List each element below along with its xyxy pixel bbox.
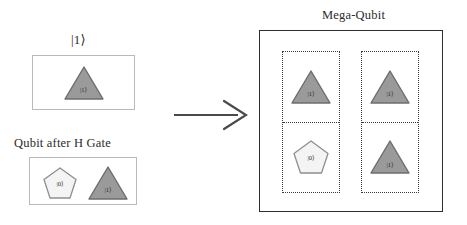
triangle-icon xyxy=(87,165,129,201)
after-h-gate-caption: Qubit after H Gate xyxy=(14,137,111,150)
triangle-icon xyxy=(290,69,332,105)
pentagon-icon xyxy=(42,166,78,200)
triangle-shape-right-top: |1⟩ xyxy=(369,69,411,105)
transform-arrow xyxy=(172,99,248,131)
triangle-icon xyxy=(63,65,105,101)
triangle-icon xyxy=(369,139,411,175)
triangle-shape-ket-one: |1⟩ xyxy=(63,65,105,101)
mega-qubit-container: |1⟩ |0⟩ |1⟩ xyxy=(259,30,443,212)
triangle-shape-right-bottom: |1⟩ xyxy=(369,139,411,175)
mega-cell-left-top: |1⟩ xyxy=(283,52,339,123)
mega-cell-left-bottom: |0⟩ xyxy=(283,123,339,193)
mega-qubit-caption: Mega-Qubit xyxy=(322,9,385,22)
pentagon-icon xyxy=(292,139,330,175)
pentagon-shape-ket-zero: |0⟩ xyxy=(42,166,78,200)
diagram-canvas: |1⟩ |1⟩ Qubit after H Gate |0⟩ |1⟩ xyxy=(0,0,467,225)
triangle-shape-left-top: |1⟩ xyxy=(290,69,332,105)
qubit-box-after-h-gate: |0⟩ |1⟩ xyxy=(29,157,137,205)
triangle-icon xyxy=(369,69,411,105)
mega-qubit-column-right: |1⟩ |1⟩ xyxy=(361,51,419,193)
pentagon-shape-left-bottom: |0⟩ xyxy=(292,139,330,175)
mega-cell-right-bottom: |1⟩ xyxy=(362,123,418,193)
mega-cell-right-top: |1⟩ xyxy=(362,52,418,123)
mega-qubit-column-left: |1⟩ |0⟩ xyxy=(282,51,340,193)
triangle-shape-ket-one-h: |1⟩ xyxy=(87,165,129,201)
qubit-box-ket-one: |1⟩ xyxy=(32,55,135,110)
ket-one-caption: |1⟩ xyxy=(71,33,86,46)
right-arrow-icon xyxy=(172,99,248,131)
